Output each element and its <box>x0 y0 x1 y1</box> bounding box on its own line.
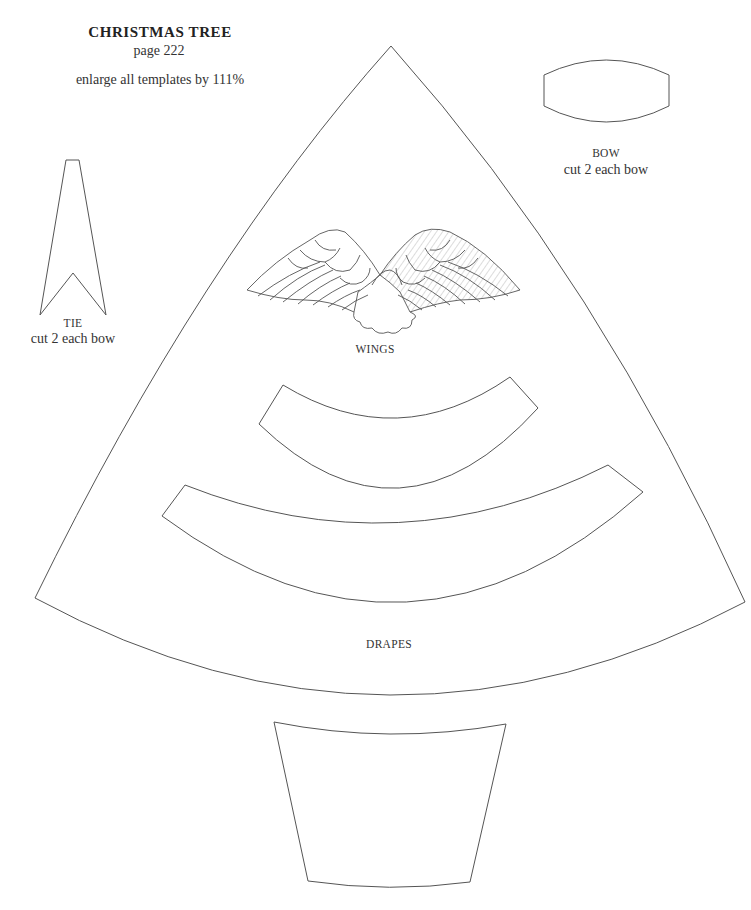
tie-label: TIE <box>64 317 83 329</box>
pot-template <box>274 722 506 887</box>
template-sheet <box>0 0 751 910</box>
bow-template <box>544 60 669 122</box>
tie-template <box>40 160 106 315</box>
wings-label: WINGS <box>355 343 394 355</box>
lower-drape-template <box>162 465 643 602</box>
tie-note: cut 2 each bow <box>31 331 115 347</box>
drapes-label: DRAPES <box>366 638 412 650</box>
bow-label: BOW <box>592 147 620 159</box>
page-title: CHRISTMAS TREE <box>88 24 232 41</box>
upper-drape-template <box>259 377 538 488</box>
bow-note: cut 2 each bow <box>564 162 648 178</box>
enlarge-instruction: enlarge all templates by 111% <box>76 72 244 88</box>
wings-template <box>247 229 520 333</box>
page-number: page 222 <box>134 43 185 59</box>
tree-outline <box>35 46 745 695</box>
